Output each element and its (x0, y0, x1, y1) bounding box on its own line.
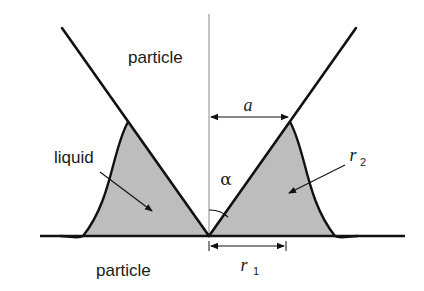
label-particle-top: particle (128, 48, 183, 67)
label-alpha: α (220, 169, 232, 189)
label-r2-subscript: 2 (360, 156, 366, 168)
label-a: a (244, 95, 253, 115)
label-r1-subscript: 1 (253, 265, 259, 277)
liquid-bridge-diagram: a α r 1 r 2 liquid particle particle (0, 0, 424, 291)
label-particle-bottom: particle (96, 261, 151, 280)
liquid-region-left (83, 122, 209, 236)
label-liquid: liquid (54, 148, 94, 167)
label-r2: r (349, 145, 357, 165)
label-r1: r (240, 255, 248, 275)
